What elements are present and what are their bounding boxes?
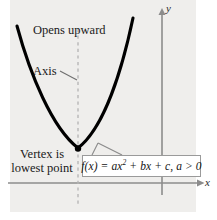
equation-callout-box: f(x) = ax2 + bx + c, a > 0 <box>82 155 201 177</box>
label-axis: Axis <box>33 64 57 78</box>
axis-label-x: x <box>205 176 210 188</box>
equation-text: f(x) = ax2 + bx + c, a > 0 <box>81 160 201 172</box>
label-vertex: Vertex is lowest point <box>8 147 76 175</box>
equation-rhs: + bx + c, a > 0 <box>126 160 201 172</box>
axis-label-y: y <box>166 2 171 14</box>
label-vertex-line1: Vertex is <box>8 147 76 161</box>
parabola-figure: Opens upward Axis Vertex is lowest point… <box>0 0 217 220</box>
label-opens-upward: Opens upward <box>33 23 106 37</box>
equation-lhs: f(x) = ax <box>81 160 122 172</box>
label-vertex-line2: lowest point <box>8 161 76 175</box>
